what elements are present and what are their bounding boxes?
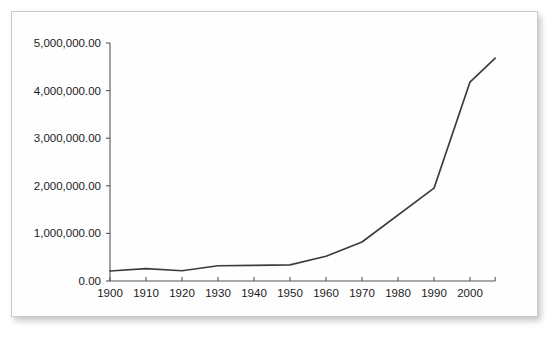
x-tick-label: 1930 bbox=[205, 287, 231, 299]
x-tick-label: 1910 bbox=[133, 287, 159, 299]
data-series-group bbox=[110, 58, 495, 271]
y-tick-label: 0.00 bbox=[79, 275, 101, 287]
y-tick-label: 3,000,000.00 bbox=[34, 132, 101, 144]
y-axis: 0.001,000,000.002,000,000.003,000,000.00… bbox=[34, 37, 110, 287]
x-tick-label: 1980 bbox=[385, 287, 411, 299]
x-tick-label: 1950 bbox=[277, 287, 303, 299]
x-tick-label: 1960 bbox=[313, 287, 339, 299]
y-tick-label: 4,000,000.00 bbox=[34, 85, 101, 97]
y-tick-label: 5,000,000.00 bbox=[34, 37, 101, 49]
line-chart: 0.001,000,000.002,000,000.003,000,000.00… bbox=[0, 0, 556, 339]
x-tick-label: 1970 bbox=[349, 287, 375, 299]
x-tick-label: 1990 bbox=[421, 287, 447, 299]
y-tick-label: 2,000,000.00 bbox=[34, 180, 101, 192]
y-tick-label: 1,000,000.00 bbox=[34, 227, 101, 239]
data-line-1 bbox=[110, 58, 495, 271]
x-tick-label: 2000 bbox=[457, 287, 483, 299]
x-tick-label: 1940 bbox=[241, 287, 267, 299]
x-tick-label: 1920 bbox=[169, 287, 195, 299]
x-axis: 1900191019201930194019501960197019801990… bbox=[97, 277, 495, 299]
x-tick-label: 1900 bbox=[97, 287, 123, 299]
